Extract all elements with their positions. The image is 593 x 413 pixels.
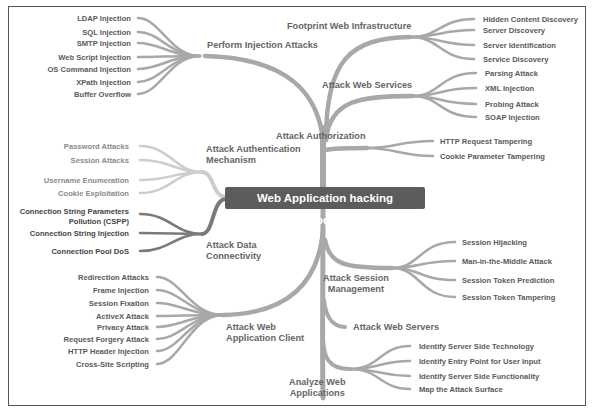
leaf-cross-site-scripting[interactable]: Cross-Site Scripting (76, 360, 149, 369)
branch-attack-session-management[interactable]: Attack Session Management (323, 273, 389, 295)
branch-attack-web-servers[interactable]: Attack Web Servers (353, 322, 439, 333)
branch-footprint-web-infrastructure[interactable]: Footprint Web Infrastructure (287, 21, 411, 32)
leaf-soap-injection[interactable]: SOAP Injection (485, 113, 540, 122)
leaf-identify-entry-point[interactable]: Identify Entry Point for User Input (419, 357, 541, 366)
leaf-os-command-injection[interactable]: OS Command Injection (47, 65, 131, 74)
central-topic[interactable]: Web Application hacking Methodology (225, 187, 425, 209)
leaf-http-header-injection[interactable]: HTTP Header Injection (68, 347, 149, 356)
branch-label-line2: Applications (289, 388, 346, 399)
leaf-request-forgery-attack[interactable]: Request Forgery Attack (64, 335, 149, 344)
leaf-privacy-attack[interactable]: Privacy Attack (97, 323, 149, 332)
leaf-password-attacks[interactable]: Password Attacks (64, 142, 129, 151)
leaf-smtp-injection[interactable]: SMTP Injection (77, 39, 131, 48)
leaf-identify-server-side-functionality[interactable]: Identify Server Side Functionality (419, 372, 539, 381)
branch-label-line1: Analyze Web (289, 377, 346, 388)
leaf-service-discovery[interactable]: Service Discovery (483, 55, 548, 64)
leaf-xpath-injection[interactable]: XPath Injection (76, 78, 131, 87)
leaf-session-hijacking[interactable]: Session Hijacking (462, 238, 527, 247)
leaf-cspp-line2[interactable]: Pollution (CSPP) (69, 217, 129, 226)
leaf-session-token-prediction[interactable]: Session Token Prediction (462, 276, 554, 285)
branch-attack-data-connectivity[interactable]: Attack Data Connectivity (206, 240, 261, 262)
branch-label-line1: Attack Session (323, 273, 389, 284)
leaf-session-token-tampering[interactable]: Session Token Tampering (462, 293, 555, 302)
leaf-man-in-the-middle-attack[interactable]: Man-in-the-Middle Attack (462, 257, 552, 266)
branch-label-line2: Connectivity (206, 251, 261, 262)
leaf-cspp-line1[interactable]: Connection String Parameters (20, 207, 129, 216)
leaf-xml-injection[interactable]: XML Injection (485, 84, 534, 93)
leaf-username-enumeration[interactable]: Username Enumeration (44, 176, 129, 185)
branch-attack-web-application-client[interactable]: Attack Web Application Client (226, 322, 304, 344)
branch-label-line2: Management (323, 284, 389, 295)
leaf-session-fixation[interactable]: Session Fixation (89, 299, 149, 308)
leaf-map-the-attack-surface[interactable]: Map the Attack Surface (419, 385, 503, 394)
leaf-identify-server-side-technology[interactable]: Identify Server Side Technology (419, 342, 534, 351)
leaf-ldap-injection[interactable]: LDAP Injection (77, 14, 131, 23)
leaf-connection-string-injection[interactable]: Connection String Injection (30, 229, 129, 238)
leaf-cookie-exploitation[interactable]: Cookie Exploitation (58, 189, 129, 198)
branch-label-line1: Attack Authentication (206, 144, 301, 155)
branch-perform-injection-attacks[interactable]: Perform Injection Attacks (207, 40, 318, 51)
leaf-web-script-injection[interactable]: Web Script Injection (58, 53, 131, 62)
branch-attack-authorization[interactable]: Attack Authorization (276, 131, 366, 142)
branch-label-line1: Attack Data (206, 240, 261, 251)
branch-attack-authentication-mechanism[interactable]: Attack Authentication Mechanism (206, 144, 301, 166)
branch-attack-web-services[interactable]: Attack Web Services (322, 80, 412, 91)
branch-label-line2: Mechanism (206, 155, 301, 166)
leaf-activex-attack[interactable]: ActiveX Attack (96, 312, 149, 321)
leaf-parsing-attack[interactable]: Parsing Attack (485, 69, 538, 78)
leaf-hidden-content-discovery[interactable]: Hidden Content Discovery (483, 15, 578, 24)
leaf-probing-attack[interactable]: Probing Attack (485, 100, 539, 109)
leaf-server-discovery[interactable]: Server Discovery (483, 26, 545, 35)
leaf-http-request-tampering[interactable]: HTTP Request Tampering (440, 137, 532, 146)
leaf-cookie-parameter-tampering[interactable]: Cookie Parameter Tampering (440, 152, 545, 161)
branch-analyze-web-applications[interactable]: Analyze Web Applications (289, 377, 346, 399)
leaf-redirection-attacks[interactable]: Redirection Attacks (78, 273, 149, 282)
leaf-session-attacks[interactable]: Session Attacks (71, 156, 129, 165)
leaf-server-identification[interactable]: Server Identification (483, 41, 556, 50)
branch-label-line2: Application Client (226, 333, 304, 344)
branch-label-line1: Attack Web (226, 322, 304, 333)
leaf-sql-injection[interactable]: SQL Injection (82, 28, 131, 37)
leaf-frame-injection[interactable]: Frame Injection (93, 286, 149, 295)
leaf-buffer-overflow[interactable]: Buffer Overflow (74, 90, 131, 99)
leaf-connection-pool-dos[interactable]: Connection Pool DoS (51, 247, 129, 256)
